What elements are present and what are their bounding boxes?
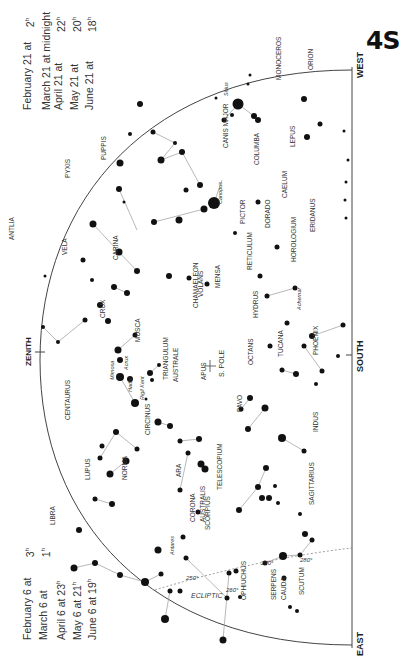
star	[117, 572, 123, 578]
constellation-label: PHOENIX	[312, 325, 319, 355]
constellation-line	[248, 408, 265, 429]
constellation-label: CAELUM	[281, 171, 288, 198]
star	[265, 294, 270, 299]
star	[111, 284, 117, 290]
star	[141, 578, 149, 586]
constellation-line	[165, 591, 170, 619]
star	[173, 141, 177, 145]
star	[295, 609, 299, 613]
star	[310, 538, 315, 543]
star	[236, 507, 242, 513]
star	[151, 219, 157, 225]
star	[90, 278, 94, 282]
star	[259, 495, 265, 501]
star	[215, 97, 218, 100]
constellation-label: AUSTRALE	[172, 347, 179, 382]
star	[247, 83, 250, 86]
constellation-label: SAGITTARIUS	[308, 461, 315, 505]
star	[258, 274, 263, 279]
star	[268, 344, 273, 349]
star	[233, 99, 244, 110]
ecliptic-mark-260: 260°	[225, 587, 239, 593]
star	[302, 344, 307, 349]
named-star-label: Achernar	[296, 287, 302, 311]
constellation-line	[267, 288, 295, 296]
time-row: June 6 at 19h	[82, 548, 98, 640]
star	[56, 340, 60, 344]
star	[196, 436, 202, 442]
star	[128, 132, 132, 136]
star	[279, 552, 287, 560]
constellation-line	[95, 563, 120, 575]
constellation-label: CENTAURUS	[64, 379, 71, 420]
star	[161, 615, 169, 623]
star	[234, 569, 239, 574]
constellation-label: NORMA	[121, 455, 128, 480]
constellation-line	[239, 487, 258, 510]
star	[298, 512, 302, 516]
star	[178, 439, 183, 444]
ecliptic-mark-280: 280°	[299, 557, 313, 563]
constellation-label: CAUDA	[280, 577, 287, 600]
west-label: WEST	[355, 51, 365, 78]
named-star-label: Hadar	[127, 376, 133, 392]
constellation-label: CARINA	[112, 235, 119, 260]
named-star-label: Mimosa	[109, 361, 115, 380]
zenith-label: ZENITH	[24, 337, 33, 366]
star	[178, 488, 183, 493]
named-star-label: Rigil Kent	[139, 376, 145, 400]
star	[341, 323, 346, 328]
constellation-label: PUPPIS	[100, 135, 107, 160]
star	[288, 605, 292, 609]
constellation-label: CHAMAELEON	[192, 262, 199, 308]
time-row: May 6 at 21h	[67, 548, 83, 640]
named-star-label: Antares	[169, 536, 175, 556]
star	[117, 160, 124, 167]
star	[278, 434, 286, 442]
constellation-label: ORION	[307, 48, 314, 70]
star	[220, 637, 227, 644]
constellation-label: TELESCOPIUM	[216, 443, 223, 490]
constellation-label: TUCANA	[277, 330, 284, 357]
named-star-label: Canopus	[217, 182, 223, 204]
star	[167, 423, 173, 429]
constellation-label: AUSTRALIS	[199, 485, 206, 522]
star	[276, 501, 280, 505]
constellation-label: SCUTUM	[298, 567, 305, 595]
star	[184, 188, 189, 193]
star	[255, 117, 261, 123]
constellation-line	[116, 432, 137, 449]
constellation-label: HYDRUS	[252, 290, 259, 318]
constellation-label: CANIS MAJOR	[222, 103, 229, 148]
constellation-label: MUSCA	[134, 318, 141, 342]
star	[227, 571, 232, 576]
star	[293, 371, 299, 377]
constellation-label: HOROLOGIUM	[290, 217, 297, 262]
times-table-bottom: February 6 at3hMarch 6 at1hApril 6 at 23…	[20, 548, 98, 640]
constellation-label: TRIANGULUM	[162, 337, 169, 380]
star	[336, 354, 340, 358]
star	[301, 96, 307, 102]
constellation-line	[58, 320, 85, 342]
star	[273, 484, 277, 488]
star	[123, 201, 126, 204]
ecliptic-mark-250: 250°	[185, 575, 199, 581]
star	[197, 182, 203, 188]
star	[263, 465, 269, 471]
constellation-line	[258, 468, 266, 487]
constellation-line	[182, 152, 200, 185]
constellation-label: OPHIUCHUS	[240, 560, 247, 600]
constellation-label: LUPUS	[84, 458, 91, 480]
south-label: SOUTH	[355, 341, 365, 373]
star	[155, 547, 162, 554]
constellation-label: CIRCINUS	[144, 403, 151, 435]
star	[90, 221, 97, 228]
constellation-line	[223, 573, 229, 640]
star	[116, 186, 122, 192]
star	[109, 501, 115, 507]
star	[124, 290, 130, 296]
constellation-label: ERIDANUS	[309, 198, 316, 232]
star	[83, 318, 88, 323]
star	[134, 268, 140, 274]
star	[115, 347, 122, 354]
